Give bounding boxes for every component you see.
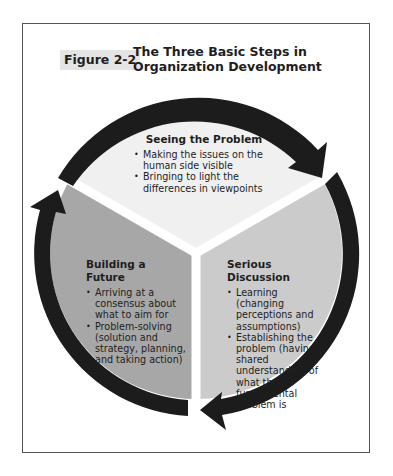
bullet-item: Making the issues on the human side visi… — [134, 149, 294, 171]
segment-building-a-future: Building a Future Arriving at a consensu… — [86, 258, 186, 365]
bullet-list: Learning (changing perceptions and assum… — [227, 287, 327, 410]
segment-heading: Seeing the Problem — [114, 133, 294, 146]
bullet-item: Establishing the problem (having a share… — [227, 332, 327, 410]
segment-heading: Serious Discussion — [227, 258, 327, 284]
cycle-diagram — [0, 0, 393, 476]
segment-heading: Building a Future — [86, 258, 186, 284]
segment-serious-discussion: Serious Discussion Learning (changing pe… — [227, 258, 327, 410]
bullet-item: Problem-solving (solution and strategy, … — [86, 321, 186, 366]
bullet-item: Bringing to light the differences in vie… — [134, 171, 294, 193]
bullet-item: Arriving at a consensus about what to ai… — [86, 287, 186, 321]
bullet-list: Making the issues on the human side visi… — [134, 149, 294, 194]
bullet-list: Arriving at a consensus about what to ai… — [86, 287, 186, 365]
bullet-item: Learning (changing perceptions and assum… — [227, 287, 327, 332]
segment-seeing-the-problem: Seeing the Problem Making the issues on … — [134, 133, 294, 194]
